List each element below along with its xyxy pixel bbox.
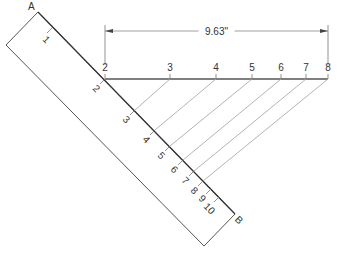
construction-line xyxy=(170,79,252,146)
rule-tick xyxy=(214,197,219,202)
end-label-b: B xyxy=(233,214,246,227)
line-point-label: 4 xyxy=(213,62,219,73)
rule-tick xyxy=(206,189,211,194)
construction-line xyxy=(183,79,281,160)
rule-tick-label: 1 xyxy=(41,34,53,46)
construction-line xyxy=(203,79,328,181)
rule-tick xyxy=(47,28,52,33)
construction-line xyxy=(155,79,216,130)
proportional-division-diagram: 12345678910 A B 2345678 9.63" xyxy=(0,0,339,261)
dimension-label: 9.63" xyxy=(205,26,228,37)
rule-tick xyxy=(165,146,170,151)
rule-tick xyxy=(100,79,105,84)
rule: 12345678910 A B xyxy=(6,1,246,246)
rule-tick-label: 10 xyxy=(202,201,218,217)
line-point-label: 3 xyxy=(167,62,173,73)
end-label-a: A xyxy=(28,1,35,12)
rule-tick xyxy=(130,110,135,115)
dimension: 9.63" xyxy=(105,25,328,65)
line-point-label: 7 xyxy=(303,62,309,73)
arrow-right-icon xyxy=(320,29,328,33)
divided-line: 2345678 xyxy=(102,62,331,79)
rule-tick-label: 5 xyxy=(156,150,168,162)
construction-lines xyxy=(135,79,328,181)
rule-tick-label: 2 xyxy=(91,83,103,95)
rule-ticks: 12345678910 xyxy=(41,28,219,217)
rule-tick xyxy=(150,130,155,135)
construction-line xyxy=(194,79,306,171)
rule-graduated-edge xyxy=(38,12,235,214)
line-ticks: 2345678 xyxy=(102,62,331,79)
rule-tick-label: 3 xyxy=(121,114,133,126)
line-point-label: 5 xyxy=(249,62,255,73)
line-point-label: 6 xyxy=(278,62,284,73)
rule-outline xyxy=(6,12,235,246)
rule-tick xyxy=(178,160,183,165)
rule-tick-label: 6 xyxy=(169,164,181,176)
construction-line xyxy=(135,79,170,110)
rule-tick xyxy=(189,171,194,176)
rule-tick-label: 4 xyxy=(141,134,153,146)
rule-tick xyxy=(198,181,203,186)
rule-tick-label: 7 xyxy=(180,175,192,187)
arrow-left-icon xyxy=(105,29,113,33)
rule-tick-label: 8 xyxy=(189,185,201,197)
